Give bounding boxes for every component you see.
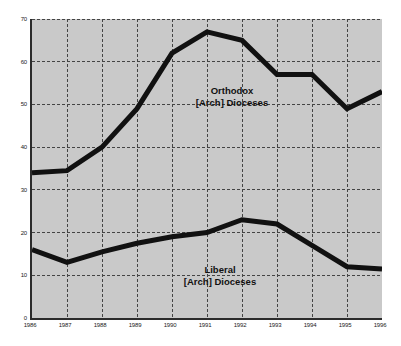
x-axis-tick-label: 1995 (328, 322, 362, 329)
series-annotation-liberal: Liberal [Arch] Dioceses (140, 264, 300, 288)
plot-area: Orthodox [Arch] Dioceses Liberal [Arch] … (30, 19, 382, 320)
chart-container: 010203040506070 Orthodox [Arch] Dioceses… (0, 0, 401, 346)
series-annotation-liberal-line1: Liberal (140, 264, 300, 276)
x-axis-tick-label: 1989 (118, 322, 152, 329)
series-annotation-liberal-line2: [Arch] Dioceses (140, 276, 300, 288)
x-axis-tick-label: 1986 (13, 322, 47, 329)
series-annotation-orthodox: Orthodox [Arch] Dioceses (152, 85, 312, 109)
x-axis-tick-label: 1993 (258, 322, 292, 329)
y-axis-tick-label: 50 (3, 101, 27, 107)
y-axis-tick-label: 30 (3, 187, 27, 193)
y-axis-tick-label: 40 (3, 144, 27, 150)
y-axis-tick-label: 70 (3, 16, 27, 22)
y-axis-tick-label: 20 (3, 230, 27, 236)
x-axis-tick-label: 1990 (153, 322, 187, 329)
y-axis-tick-label: 0 (3, 315, 27, 321)
x-axis-tick-label: 1988 (83, 322, 117, 329)
x-axis-tick-label: 1994 (293, 322, 327, 329)
x-axis-tick-label: 1991 (188, 322, 222, 329)
series-annotation-orthodox-line1: Orthodox (152, 85, 312, 97)
x-axis-tick-label: 1992 (223, 322, 257, 329)
x-axis-tick-label: 1996 (363, 322, 397, 329)
series-annotation-orthodox-line2: [Arch] Dioceses (152, 97, 312, 109)
x-axis-tick-label: 1987 (48, 322, 82, 329)
y-axis-tick-label: 60 (3, 59, 27, 65)
y-axis-tick-label: 10 (3, 272, 27, 278)
